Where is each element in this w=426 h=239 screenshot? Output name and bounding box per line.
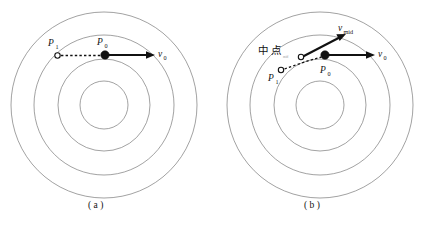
panel-b-point-P1 [278, 67, 283, 72]
panel-a-ring-4 [11, 12, 197, 198]
panel-b-label-v0-sub: 0 [384, 54, 387, 61]
panel-b-label-vmid-sub: mid [344, 28, 355, 35]
panel-a-label-P0-base: P [96, 37, 103, 47]
panel-a-label-P0-sub: 0 [105, 42, 108, 49]
panel-a-label-P1-sub: 1 [56, 43, 59, 50]
panel-b-vector-v0 [325, 51, 375, 59]
panel-b-label-vmid: v mid [338, 23, 354, 35]
panel-b-label-P1: P 1 [267, 73, 279, 85]
panel-b: 中 点 mid P 1 P 0 v 0 v mid ( b ) [227, 12, 413, 211]
panel-a-label-P1: P 1 [47, 38, 59, 50]
figure-container: P 1 P 0 v 0 ( a ) [0, 0, 426, 239]
panel-a: P 1 P 0 v 0 ( a ) [11, 12, 197, 211]
panel-a-label-v0-base: v [158, 49, 163, 59]
panel-a-vector-v0 [105, 51, 155, 59]
panel-b-label-v0-base: v [378, 49, 383, 59]
midpoint-label: 中 点 [258, 44, 281, 56]
panel-a-point-P0 [101, 51, 109, 59]
panel-b-point-P0 [321, 51, 329, 59]
panel-b-label-P1-sub: 1 [276, 78, 279, 85]
panel-a-ring-1 [80, 81, 128, 129]
figure-svg: P 1 P 0 v 0 ( a ) [0, 0, 426, 239]
panel-a-label-v0-sub: 0 [164, 54, 167, 61]
midpoint-sublabel: mid [283, 55, 289, 59]
panel-a-ring-2 [58, 59, 150, 151]
panel-b-label-P1-base: P [267, 73, 274, 83]
panel-a-caption: ( a ) [88, 200, 103, 211]
panel-b-label-P0: P 0 [319, 65, 331, 77]
panel-b-point-Pmid [298, 54, 303, 59]
panel-a-point-P1 [55, 53, 60, 58]
panel-b-ring-1 [296, 81, 344, 129]
panel-b-label-P0-sub: 0 [328, 70, 331, 77]
panel-b-caption: ( b ) [304, 200, 320, 211]
panel-a-label-v0: v 0 [158, 49, 167, 61]
panel-b-ring-4 [227, 12, 413, 198]
panel-a-label-P0: P 0 [96, 37, 108, 49]
panel-a-label-P1-base: P [47, 38, 54, 48]
panel-b-label-vmid-base: v [338, 23, 343, 33]
panel-b-label-v0: v 0 [378, 49, 387, 61]
panel-b-label-P0-base: P [319, 65, 326, 75]
